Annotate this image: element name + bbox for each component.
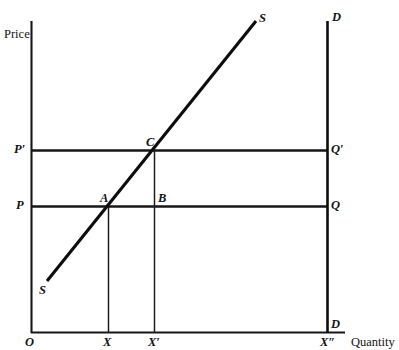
supply-curve-label-bottom: S — [39, 284, 46, 297]
price-label-p: P — [16, 199, 24, 212]
price-label-p-prime-mark: ′ — [22, 142, 26, 156]
price-label-p-prime-text: P — [14, 142, 22, 156]
origin-label: O — [25, 336, 34, 349]
quantity-label-x: X — [103, 336, 111, 349]
point-label-c: C — [146, 136, 154, 149]
price-label-p-prime: P′ — [14, 143, 25, 156]
x-axis-label: Quantity — [351, 336, 395, 349]
point-label-q: Q — [331, 199, 340, 212]
point-label-q-prime-mark: ′ — [340, 142, 344, 156]
quantity-label-x-prime: X′ — [148, 336, 160, 349]
point-label-q-prime: Q′ — [331, 143, 344, 156]
point-label-q-prime-text: Q — [331, 142, 340, 156]
demand-curve-label-top: D — [332, 11, 341, 24]
point-label-b: B — [158, 192, 166, 205]
supply-demand-diagram: Price Quantity O P′ P X X′ X″ A B C Q Q′… — [0, 0, 399, 350]
quantity-label-x-double-prime: X″ — [320, 336, 335, 349]
supply-curve-label-top: S — [259, 12, 266, 25]
point-label-a: A — [100, 192, 108, 205]
diagram-canvas — [0, 0, 399, 350]
demand-curve-label-bottom: D — [331, 318, 340, 331]
quantity-label-x-prime-mark: ′ — [156, 335, 160, 349]
quantity-label-x-double-prime-mark: ″ — [328, 335, 335, 349]
y-axis-label: Price — [4, 28, 30, 41]
